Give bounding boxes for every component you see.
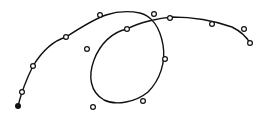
control-points-group (20, 12, 253, 110)
control-point-10 (248, 41, 253, 46)
control-point-1 (31, 64, 36, 69)
control-point-0 (20, 90, 25, 95)
control-point-7 (168, 16, 173, 21)
spline-curve (18, 12, 250, 106)
spline-diagram (0, 0, 266, 115)
control-point-2 (64, 35, 69, 40)
start-point (15, 103, 21, 109)
control-point-5 (125, 27, 130, 32)
control-point-8 (210, 22, 215, 27)
control-point-6 (152, 12, 157, 17)
control-point-3 (98, 13, 103, 18)
control-point-4 (85, 47, 90, 52)
diagram-svg (0, 0, 266, 115)
control-point-12 (141, 99, 146, 104)
control-point-13 (91, 105, 96, 110)
control-point-9 (242, 27, 247, 32)
control-point-11 (163, 57, 168, 62)
